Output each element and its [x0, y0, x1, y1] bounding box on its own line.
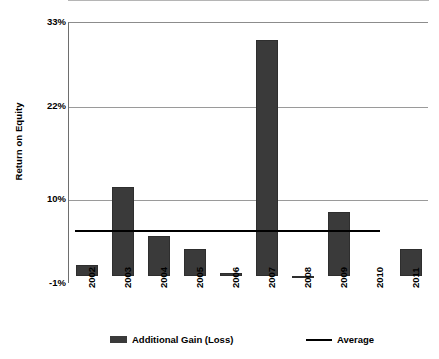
x-tick-label: 2006: [230, 267, 241, 288]
y-tick-label: 33%: [36, 17, 66, 27]
x-tick-label: 2010: [374, 267, 385, 288]
y-axis-ticks: -1%10%22%33%: [32, 0, 66, 359]
x-tick-label: 2009: [338, 267, 349, 288]
x-tick-2005: 2005: [176, 286, 212, 328]
legend-item-2: Average: [306, 334, 374, 345]
y-axis-title-label: Return on Equity: [13, 102, 24, 180]
average-line: [75, 230, 379, 232]
y-tick-label: 10%: [36, 194, 66, 204]
legend-label: Average: [337, 334, 374, 345]
x-tick-2003: 2003: [104, 286, 140, 328]
x-tick-2010: 2010: [356, 286, 392, 328]
x-tick-label: 2002: [86, 267, 97, 288]
legend-bar-swatch-icon: [110, 336, 127, 343]
x-tick-2008: 2008: [284, 286, 320, 328]
y-axis-title: Return on Equity: [0, 0, 36, 283]
x-tick-2009: 2009: [320, 286, 356, 328]
bar-2007: [256, 40, 278, 276]
x-tick-2007: 2007: [248, 286, 284, 328]
x-tick-2011: 2011: [392, 286, 428, 328]
chart-legend: Additional Gain (Loss)Average: [68, 334, 428, 354]
x-tick-2004: 2004: [140, 286, 176, 328]
chart-figure: Return on Equity -1%10%22%33% 2002200320…: [0, 0, 439, 359]
legend-label: Additional Gain (Loss): [132, 334, 233, 345]
legend-line-swatch-icon: [306, 339, 332, 341]
x-tick-label: 2011: [410, 267, 421, 288]
x-tick-label: 2008: [302, 267, 313, 288]
x-tick-2002: 2002: [68, 286, 104, 328]
x-tick-label: 2005: [194, 267, 205, 288]
bar-series: [69, 23, 428, 283]
x-tick-label: 2003: [122, 267, 133, 288]
x-axis-ticks: 2002200320042005200620072008200920102011: [68, 286, 428, 330]
x-axis-line-shadow: [68, 0, 429, 1]
y-tick-label: -1%: [36, 278, 66, 288]
x-tick-label: 2004: [158, 267, 169, 288]
y-tick-label: 22%: [36, 101, 66, 111]
x-tick-2006: 2006: [212, 286, 248, 328]
legend-item-1: Additional Gain (Loss): [110, 334, 233, 345]
plot-area: [68, 22, 428, 283]
x-tick-label: 2007: [266, 267, 277, 288]
